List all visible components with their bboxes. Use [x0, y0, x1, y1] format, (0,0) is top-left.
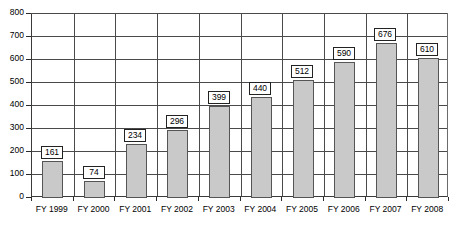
y-axis-tick-label: 600 [0, 54, 24, 63]
bar [376, 43, 397, 198]
y-axis-tick-label: 700 [0, 31, 24, 40]
bar [167, 130, 188, 198]
data-label: 610 [416, 43, 438, 56]
data-label: 234 [124, 129, 146, 142]
x-axis-category-label: FY 2008 [406, 205, 448, 214]
x-axis-tick-mark [448, 197, 449, 201]
x-axis-category-label: FY 1999 [31, 205, 73, 214]
x-axis-tick-mark [156, 197, 157, 201]
bar [418, 58, 439, 198]
bar-chart: 8007006005004003002001000 16174234296399… [0, 0, 458, 226]
column-separator [282, 14, 283, 196]
x-axis-category-label: FY 2006 [323, 205, 365, 214]
column-separator [157, 14, 158, 196]
x-axis-tick-mark [323, 197, 324, 201]
x-axis-category-label: FY 2000 [73, 205, 115, 214]
y-axis-tick-label: 100 [0, 169, 24, 178]
data-label: 676 [374, 28, 396, 41]
x-axis-category-label: FY 2005 [281, 205, 323, 214]
x-axis-tick-mark [73, 197, 74, 201]
data-label: 296 [166, 115, 188, 128]
x-axis-tick-mark [281, 197, 282, 201]
data-label: 512 [291, 65, 313, 78]
x-axis-category-label: FY 2002 [156, 205, 198, 214]
column-separator [241, 14, 242, 196]
data-label: 590 [333, 47, 355, 60]
y-axis-tick-label: 300 [0, 123, 24, 132]
bar [251, 97, 272, 198]
x-axis-tick-mark [198, 197, 199, 201]
data-label: 399 [208, 91, 230, 104]
data-label: 440 [249, 82, 271, 95]
gridline [32, 13, 447, 14]
bar [42, 161, 63, 198]
column-separator [324, 14, 325, 196]
bar [126, 144, 147, 198]
y-axis-tick-label: 800 [0, 8, 24, 17]
column-separator [366, 14, 367, 196]
data-label: 161 [41, 146, 63, 159]
y-axis-tick-label: 200 [0, 146, 24, 155]
column-separator [74, 14, 75, 196]
bar [334, 62, 355, 198]
x-axis-category-label: FY 2004 [240, 205, 282, 214]
bar [293, 80, 314, 198]
column-separator [407, 14, 408, 196]
x-axis-category-label: FY 2007 [365, 205, 407, 214]
x-axis-tick-mark [365, 197, 366, 201]
x-axis-tick-mark [31, 197, 32, 201]
column-separator [115, 14, 116, 196]
x-axis-tick-mark [114, 197, 115, 201]
y-axis-tick-label: 0 [0, 192, 24, 201]
bar [84, 181, 105, 198]
x-axis-category-label: FY 2003 [198, 205, 240, 214]
x-axis-tick-mark [240, 197, 241, 201]
x-axis-tick-mark [406, 197, 407, 201]
x-axis-category-label: FY 2001 [114, 205, 156, 214]
data-label: 74 [83, 166, 105, 179]
bar [209, 106, 230, 198]
y-axis-tick-label: 400 [0, 100, 24, 109]
column-separator [199, 14, 200, 196]
y-axis-tick-label: 500 [0, 77, 24, 86]
